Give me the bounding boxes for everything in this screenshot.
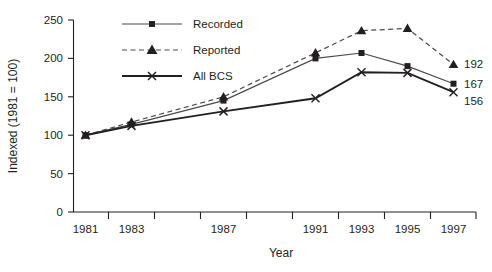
x-tick-label-1995: 1995 xyxy=(395,223,421,235)
marker-recorded-1991 xyxy=(313,55,319,61)
x-tick-label-1991: 1991 xyxy=(303,223,329,235)
markers-reported xyxy=(81,24,459,139)
marker-recorded-1995 xyxy=(405,63,411,69)
x-tick-label-1981: 1981 xyxy=(73,223,99,235)
x-tick-label-1987: 1987 xyxy=(211,223,237,235)
legend-label-allbcs: All BCS xyxy=(193,70,233,82)
marker-recorded-1987 xyxy=(221,98,227,104)
legend-label-recorded: Recorded xyxy=(193,18,243,30)
x-tick-label-1983: 1983 xyxy=(119,223,145,235)
legend-item-allbcs[interactable]: All BCS xyxy=(122,70,233,82)
end-label-reported: 192 xyxy=(464,58,483,70)
legend-marker-triangle-icon xyxy=(147,45,158,55)
marker-reported-1995 xyxy=(403,24,413,32)
y-tick-label-50: 50 xyxy=(50,168,63,180)
legend-item-reported[interactable]: Reported xyxy=(122,44,240,56)
x-tick-label-1997: 1997 xyxy=(441,223,467,235)
y-tick-label-150: 150 xyxy=(44,91,63,103)
end-label-recorded: 167 xyxy=(464,78,483,90)
series-line-allbcs xyxy=(86,72,454,135)
legend-label-reported: Reported xyxy=(193,44,240,56)
x-axis-title: Year xyxy=(269,246,293,260)
series-line-recorded xyxy=(86,53,454,135)
x-tick-label-1993: 1993 xyxy=(349,223,375,235)
y-axis-ticks: 0 50 100 150 200 250 xyxy=(44,14,74,218)
y-tick-label-200: 200 xyxy=(44,52,63,64)
y-axis-title: Indexed (1981 = 100) xyxy=(6,59,20,173)
y-tick-label-100: 100 xyxy=(44,129,63,141)
marker-recorded-1997 xyxy=(451,81,457,87)
chart-legend: Recorded Reported All BCS xyxy=(122,18,243,82)
marker-reported-1991 xyxy=(311,48,321,56)
legend-marker-square-icon xyxy=(149,21,155,27)
y-tick-label-0: 0 xyxy=(57,206,63,218)
end-label-allbcs: 156 xyxy=(464,95,483,107)
chart-figure: 0 50 100 150 200 250 1981 1983 1 xyxy=(0,0,492,272)
x-axis-ticks: 1981 1983 1987 1991 1993 1995 1997 xyxy=(73,212,476,235)
marker-recorded-1993 xyxy=(359,50,365,56)
series-line-reported xyxy=(86,28,454,135)
marker-allbcs-1997 xyxy=(450,88,458,96)
y-tick-label-250: 250 xyxy=(44,14,63,26)
chart-canvas: 0 50 100 150 200 250 1981 1983 1 xyxy=(0,0,492,272)
legend-item-recorded[interactable]: Recorded xyxy=(122,18,243,30)
marker-reported-1997 xyxy=(449,60,459,68)
